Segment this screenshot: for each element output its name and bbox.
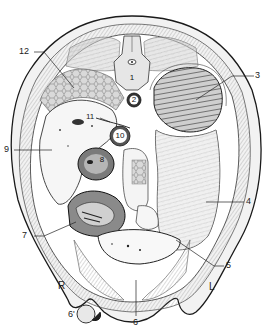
label-9: 9 [4, 145, 9, 154]
orientation-left: L [209, 282, 215, 291]
label-5: 5 [226, 261, 231, 270]
colon-7 [68, 191, 125, 236]
label-1: 1 [128, 74, 136, 82]
label-2: 2 [130, 96, 138, 104]
label-6-prime: 6' [68, 310, 75, 319]
label-6: 6 [133, 318, 138, 327]
label-12: 12 [19, 47, 29, 56]
label-7: 7 [22, 231, 27, 240]
label-10: 10 [113, 132, 127, 140]
label-3: 3 [255, 71, 260, 80]
anatomical-figure: 12 3 9 11 7 4 5 6 6' 1 2 10 8 R L [0, 0, 264, 330]
organ-8 [78, 148, 114, 180]
label-11: 11 [86, 112, 94, 121]
label-8: 8 [98, 156, 106, 164]
umbilicus-6prime [77, 305, 101, 323]
cross-section-illustration [0, 0, 264, 330]
orientation-right: R [58, 281, 65, 290]
label-4: 4 [246, 197, 251, 206]
spleen-colon [155, 130, 219, 250]
